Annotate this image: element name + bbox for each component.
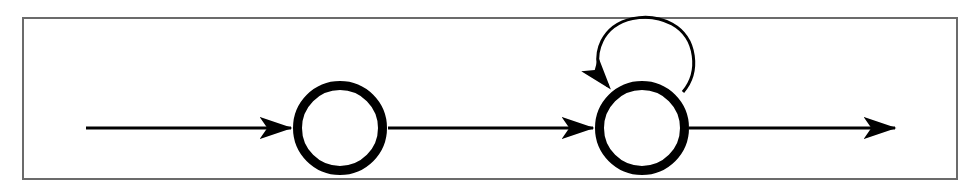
figure-border — [23, 18, 957, 179]
state-node-2 — [600, 86, 685, 171]
automaton-figure — [0, 0, 980, 195]
state-node-1 — [298, 86, 383, 171]
automaton-svg-canvas — [0, 0, 980, 195]
